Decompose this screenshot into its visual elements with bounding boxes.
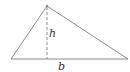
base-label: b: [58, 60, 65, 72]
apex-point: [46, 5, 48, 7]
triangle-diagram: h b: [0, 0, 130, 72]
height-label: h: [49, 27, 56, 40]
triangle: [11, 6, 128, 59]
